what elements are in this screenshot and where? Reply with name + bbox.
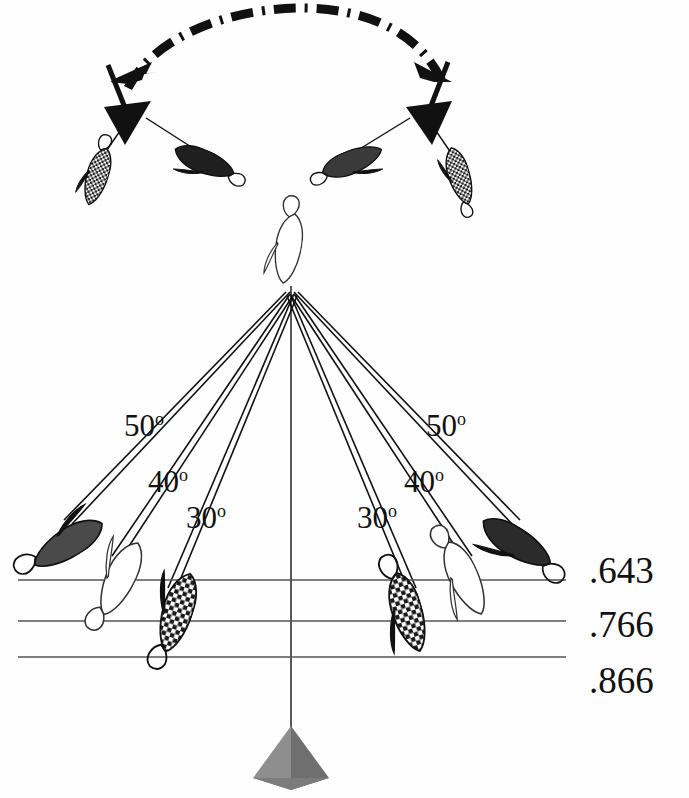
top-left-solid-fish bbox=[168, 139, 250, 196]
fan-fish-right-50 bbox=[470, 510, 574, 595]
angle-label-right-40-value: 40 bbox=[404, 464, 435, 499]
value-label-866: .866 bbox=[589, 662, 654, 699]
fan-fish-right-40 bbox=[417, 518, 494, 624]
pyramid-face-bottom bbox=[253, 778, 329, 790]
ray-left-30 bbox=[168, 296, 293, 588]
angle-label-right-50: 50o bbox=[426, 410, 466, 441]
angle-label-left-30-value: 30 bbox=[186, 500, 217, 535]
rotation-arc bbox=[128, 8, 444, 88]
value-label-643: .643 bbox=[589, 552, 654, 589]
top-right-solid-fish bbox=[306, 139, 389, 196]
angle-label-left-40-value: 40 bbox=[148, 464, 179, 499]
angle-label-right-50-value: 50 bbox=[426, 408, 457, 443]
angle-label-left-50-value: 50 bbox=[124, 408, 155, 443]
degree-symbol-right-40: o bbox=[435, 465, 444, 485]
diagram-svg bbox=[0, 0, 689, 798]
degree-symbol-left-40: o bbox=[179, 465, 188, 485]
fan-fish-left-50 bbox=[5, 502, 109, 587]
top-right-checkered-fish bbox=[435, 145, 481, 221]
fan-fish-right-30 bbox=[366, 550, 434, 659]
pyramid-marker bbox=[253, 726, 329, 790]
degree-symbol-right-30: o bbox=[388, 501, 397, 521]
ray-right-50b bbox=[294, 292, 512, 524]
angle-label-left-30: 30o bbox=[186, 502, 226, 533]
ray-right-30b bbox=[287, 296, 408, 590]
apex-fish bbox=[263, 193, 310, 285]
ray-left-30b bbox=[176, 296, 297, 590]
angle-label-left-50: 50o bbox=[124, 410, 164, 441]
degree-symbol-right-50: o bbox=[457, 409, 466, 429]
top-panel-group bbox=[73, 8, 482, 221]
ray-right-30 bbox=[291, 296, 416, 588]
top-right-connector-b bbox=[358, 118, 410, 150]
angle-label-right-40: 40o bbox=[404, 466, 444, 497]
degree-symbol-left-50: o bbox=[155, 409, 164, 429]
value-label-766: .766 bbox=[589, 606, 654, 643]
fan-lines-group bbox=[64, 286, 520, 730]
angle-label-right-30: 30o bbox=[357, 502, 397, 533]
degree-symbol-left-30: o bbox=[217, 501, 226, 521]
angle-label-right-30-value: 30 bbox=[357, 500, 388, 535]
angle-label-left-40: 40o bbox=[148, 466, 188, 497]
figure-canvas: 50o 40o 30o 30o 40o 50o .643 .766 .866 bbox=[0, 0, 689, 798]
right-vertex-triangle bbox=[406, 101, 452, 145]
